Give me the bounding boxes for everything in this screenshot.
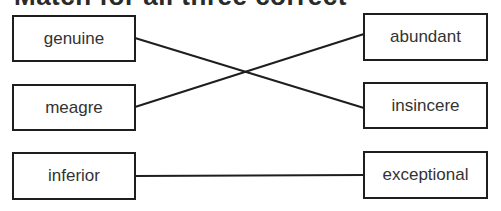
left-box-inferior[interactable]: inferior: [12, 152, 136, 200]
left-box-label: genuine: [44, 29, 105, 49]
left-box-label: meagre: [45, 98, 103, 118]
right-box-exceptional[interactable]: exceptional: [363, 151, 488, 199]
connector-meagre-abundant: [135, 34, 364, 107]
connector-inferior-exceptional: [135, 175, 364, 176]
right-box-label: insincere: [391, 96, 459, 116]
left-box-genuine[interactable]: genuine: [12, 15, 136, 62]
right-box-label: abundant: [390, 27, 461, 47]
connector-genuine-insincere: [135, 38, 364, 108]
right-box-insincere[interactable]: insincere: [363, 82, 488, 129]
right-box-label: exceptional: [382, 165, 468, 185]
left-box-meagre[interactable]: meagre: [12, 84, 136, 131]
left-box-label: inferior: [48, 166, 100, 186]
right-box-abundant[interactable]: abundant: [363, 13, 488, 61]
